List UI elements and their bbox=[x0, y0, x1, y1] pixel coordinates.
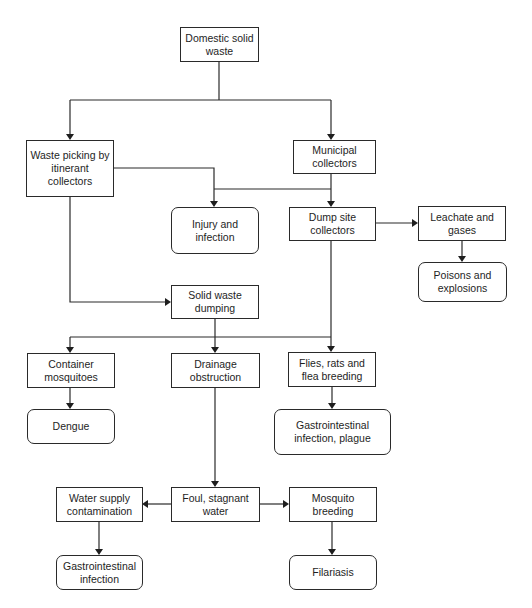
node-municipal-collectors: Municipal collectors bbox=[293, 140, 376, 174]
node-label: Dump site collectors bbox=[309, 211, 356, 237]
node-dengue: Dengue bbox=[27, 409, 115, 444]
node-label: Gastrointestinal infection, plague bbox=[294, 419, 370, 445]
node-dump-site-collectors: Dump site collectors bbox=[289, 207, 376, 241]
node-label: Municipal collectors bbox=[312, 144, 356, 170]
node-container-mosquitoes: Container mosquitoes bbox=[27, 353, 115, 388]
node-gastro-plague: Gastrointestinal infection, plague bbox=[274, 409, 391, 455]
node-label: Mosquito breeding bbox=[312, 492, 355, 518]
node-label: Waste picking by itinerant collectors bbox=[31, 149, 110, 188]
node-leachate-gases: Leachate and gases bbox=[418, 206, 506, 241]
node-label: Container mosquitoes bbox=[44, 358, 98, 384]
node-poisons-explosions: Poisons and explosions bbox=[418, 262, 507, 302]
node-water-supply-contamination: Water supply contamination bbox=[56, 487, 143, 522]
node-flies-rats-flea: Flies, rats and flea breeding bbox=[288, 352, 376, 387]
node-injury-infection: Injury and infection bbox=[171, 207, 259, 254]
node-label: Leachate and gases bbox=[430, 211, 494, 237]
node-drainage-obstruction: Drainage obstruction bbox=[171, 353, 260, 388]
node-label: Drainage obstruction bbox=[190, 358, 241, 384]
node-label: Flies, rats and flea breeding bbox=[299, 357, 365, 383]
node-label: Domestic solid waste bbox=[185, 32, 253, 58]
node-label: Dengue bbox=[53, 420, 90, 433]
node-filariasis: Filariasis bbox=[289, 555, 377, 590]
node-label: Water supply contamination bbox=[67, 492, 132, 518]
node-label: Filariasis bbox=[312, 566, 353, 579]
node-waste-picking: Waste picking by itinerant collectors bbox=[26, 140, 114, 197]
node-label: Foul, stagnant water bbox=[182, 492, 249, 518]
node-mosquito-breeding: Mosquito breeding bbox=[289, 487, 377, 522]
node-label: Gastrointestinal infection bbox=[63, 560, 136, 586]
node-domestic-solid-waste: Domestic solid waste bbox=[180, 27, 259, 62]
node-foul-water: Foul, stagnant water bbox=[171, 487, 260, 522]
node-gastro-infection: Gastrointestinal infection bbox=[56, 555, 143, 590]
node-label: Solid waste dumping bbox=[188, 289, 242, 315]
flowchart-diagram: Domestic solid waste Waste picking by it… bbox=[0, 0, 532, 608]
node-label: Poisons and explosions bbox=[434, 269, 492, 295]
node-label: Injury and infection bbox=[192, 218, 238, 244]
node-solid-waste-dumping: Solid waste dumping bbox=[171, 285, 259, 319]
